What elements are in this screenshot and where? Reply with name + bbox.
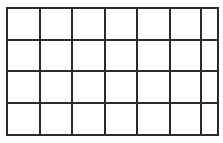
grid-cell	[7, 40, 40, 71]
grid-cell	[201, 103, 218, 135]
grid-cell	[137, 71, 170, 103]
grid-cell	[137, 103, 170, 135]
grid-cell	[40, 71, 72, 103]
grid-cell	[105, 71, 137, 103]
grid-cell	[7, 71, 40, 103]
grid-cell	[105, 8, 137, 40]
grid-cell	[72, 40, 105, 71]
grid-cell	[105, 40, 137, 71]
grid-cell	[40, 103, 72, 135]
grid-cell	[72, 8, 105, 40]
grid-cell	[72, 71, 105, 103]
grid-cell	[137, 40, 170, 71]
grid-cell	[7, 103, 40, 135]
grid-cell	[170, 103, 201, 135]
grid-cell	[105, 103, 137, 135]
grid-cell	[170, 8, 201, 40]
grid-cell	[170, 40, 201, 71]
grid-cell	[7, 8, 40, 40]
grid-cell	[201, 40, 218, 71]
grid-cell	[40, 8, 72, 40]
grid-cell	[72, 103, 105, 135]
grid-cell	[170, 71, 201, 103]
grid-cell	[40, 40, 72, 71]
grid-cell	[201, 71, 218, 103]
grid-diagram	[0, 0, 223, 143]
grid-cell	[201, 8, 218, 40]
grid-cell	[137, 8, 170, 40]
